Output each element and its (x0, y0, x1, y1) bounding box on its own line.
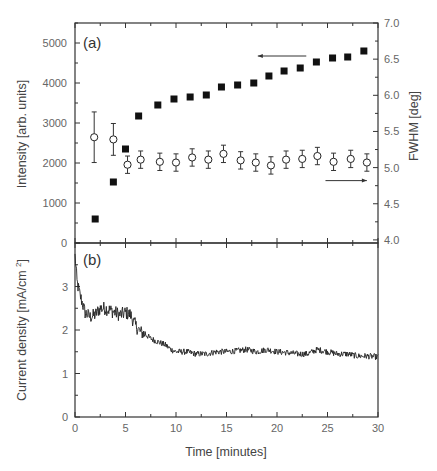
fwhm-series (91, 112, 371, 174)
y-tick-label-fwhm: 5.0 (384, 162, 399, 174)
current-density-label-text: Current density [mA/cm (15, 270, 29, 401)
current-density-trace (75, 254, 378, 360)
panel-a-label: (a) (83, 34, 101, 51)
intensity-point (218, 84, 225, 91)
fwhm-point (347, 155, 354, 162)
y-tick-label-current: 3 (62, 281, 68, 293)
y-tick-label-fwhm: 6.5 (384, 53, 399, 65)
y-axis-title-intensity: Intensity [arb. units] (15, 80, 29, 188)
fwhm-point (237, 157, 244, 164)
intensity-point (135, 113, 142, 120)
fwhm-point (91, 134, 98, 141)
fwhm-point (110, 136, 117, 143)
intensity-point (92, 216, 99, 223)
fwhm-point (299, 155, 306, 162)
panel-b-frame (75, 243, 378, 417)
intensity-point (154, 102, 161, 109)
intensity-point (329, 55, 336, 62)
current-density-label-close: ] (15, 259, 29, 262)
y-tick-label-fwhm: 7.0 (384, 17, 399, 29)
y-axis-title-fwhm: FWHM [deg] (407, 91, 421, 161)
intensity-point (281, 68, 288, 75)
intensity-point (313, 59, 320, 66)
fwhm-point (363, 159, 370, 166)
intensity-point (250, 80, 257, 87)
fwhm-point (282, 156, 289, 163)
chart-figure: 0510152025300100020003000400050004.04.55… (0, 0, 437, 471)
x-tick-label: 30 (372, 422, 384, 434)
y-axis-title-current-density: Current density [mA/cm 2] (14, 259, 29, 401)
intensity-point (110, 179, 117, 186)
y-tick-label-intensity: 5000 (43, 37, 67, 49)
intensity-point (344, 54, 351, 61)
y-tick-label-intensity: 4000 (43, 77, 67, 89)
intensity-point (187, 94, 194, 101)
fwhm-point (267, 162, 274, 169)
y-tick-label-intensity: 3000 (43, 117, 67, 129)
fwhm-point (124, 161, 131, 168)
y-tick-label-current: 2 (62, 324, 68, 336)
y-tick-label-intensity: 1000 (43, 197, 67, 209)
x-tick-label: 5 (122, 422, 128, 434)
fwhm-point (156, 158, 163, 165)
y-tick-label-fwhm: 4.0 (384, 234, 399, 246)
intensity-point (203, 92, 210, 99)
x-axis-title: Time [minutes] (185, 445, 267, 459)
y-tick-label-fwhm: 6.0 (384, 89, 399, 101)
x-tick-label: 15 (220, 422, 232, 434)
fwhm-point (330, 158, 337, 165)
intensity-point (234, 82, 241, 89)
fwhm-point (220, 150, 227, 157)
y-tick-label-fwhm: 4.5 (384, 198, 399, 210)
fwhm-point (172, 159, 179, 166)
fwhm-point (137, 156, 144, 163)
intensity-point (297, 65, 304, 72)
y-tick-label-intensity: 0 (61, 237, 67, 249)
fwhm-point (189, 154, 196, 161)
panel-b-label: (b) (83, 251, 101, 268)
y-tick-label-current: 1 (62, 368, 68, 380)
y-tick-label-current: 0 (62, 411, 68, 423)
intensity-point (265, 73, 272, 80)
intensity-point (170, 96, 177, 103)
intensity-series (92, 48, 368, 223)
intensity-point (360, 48, 367, 55)
axis-ticks (75, 23, 378, 417)
y-tick-label-intensity: 2000 (43, 157, 67, 169)
fwhm-point (314, 152, 321, 159)
x-tick-label: 10 (170, 422, 182, 434)
x-tick-label: 25 (321, 422, 333, 434)
axis-tick-labels: 0510152025300100020003000400050004.04.55… (43, 17, 400, 434)
x-tick-label: 0 (72, 422, 78, 434)
fwhm-point (252, 159, 259, 166)
intensity-point (122, 146, 129, 153)
y-tick-label-fwhm: 5.5 (384, 125, 399, 137)
fwhm-point (205, 156, 212, 163)
x-tick-label: 20 (271, 422, 283, 434)
